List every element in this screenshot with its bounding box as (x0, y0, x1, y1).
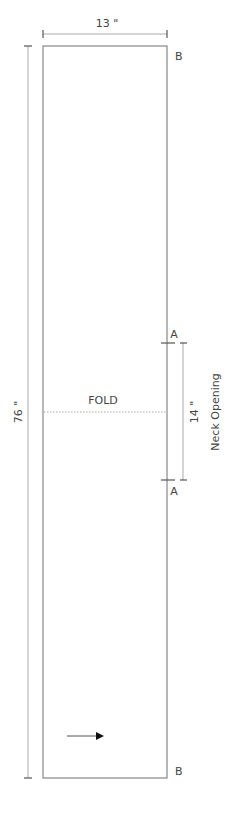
pattern-diagram: 13 " 76 " B B FOLD A A 14 " Neck Opening (0, 0, 240, 814)
neck-label-top: A (170, 328, 178, 341)
neck-opening-label: Neck Opening (209, 373, 222, 450)
fold-label: FOLD (88, 394, 118, 407)
corner-label-top-right: B (175, 50, 183, 63)
neck-label-bottom: A (170, 485, 178, 498)
width-dimension (43, 30, 167, 38)
length-label: 76 " (12, 401, 25, 424)
neck-dimension-label: 14 " (188, 401, 201, 424)
arrow-right-icon (67, 732, 104, 740)
neck-dimension (180, 343, 187, 480)
width-label: 13 " (96, 17, 119, 30)
length-dimension (24, 46, 32, 778)
corner-label-bottom-right: B (175, 765, 183, 778)
neck-markers (161, 343, 175, 480)
